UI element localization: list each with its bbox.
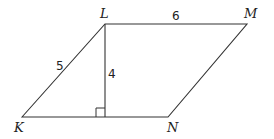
vertex-label-k: K — [13, 120, 25, 135]
side-lm-length: 6 — [172, 9, 180, 23]
vertex-label-n: N — [166, 120, 179, 135]
parallelogram-figure: L M K N 5 6 4 — [0, 0, 274, 139]
vertex-label-l: L — [99, 6, 109, 21]
diagram-canvas: L M K N 5 6 4 — [0, 0, 274, 139]
side-kl-length: 5 — [56, 59, 64, 73]
right-angle-marker-icon — [96, 108, 105, 117]
vertex-label-m: M — [243, 6, 258, 21]
height-length: 4 — [108, 67, 116, 81]
